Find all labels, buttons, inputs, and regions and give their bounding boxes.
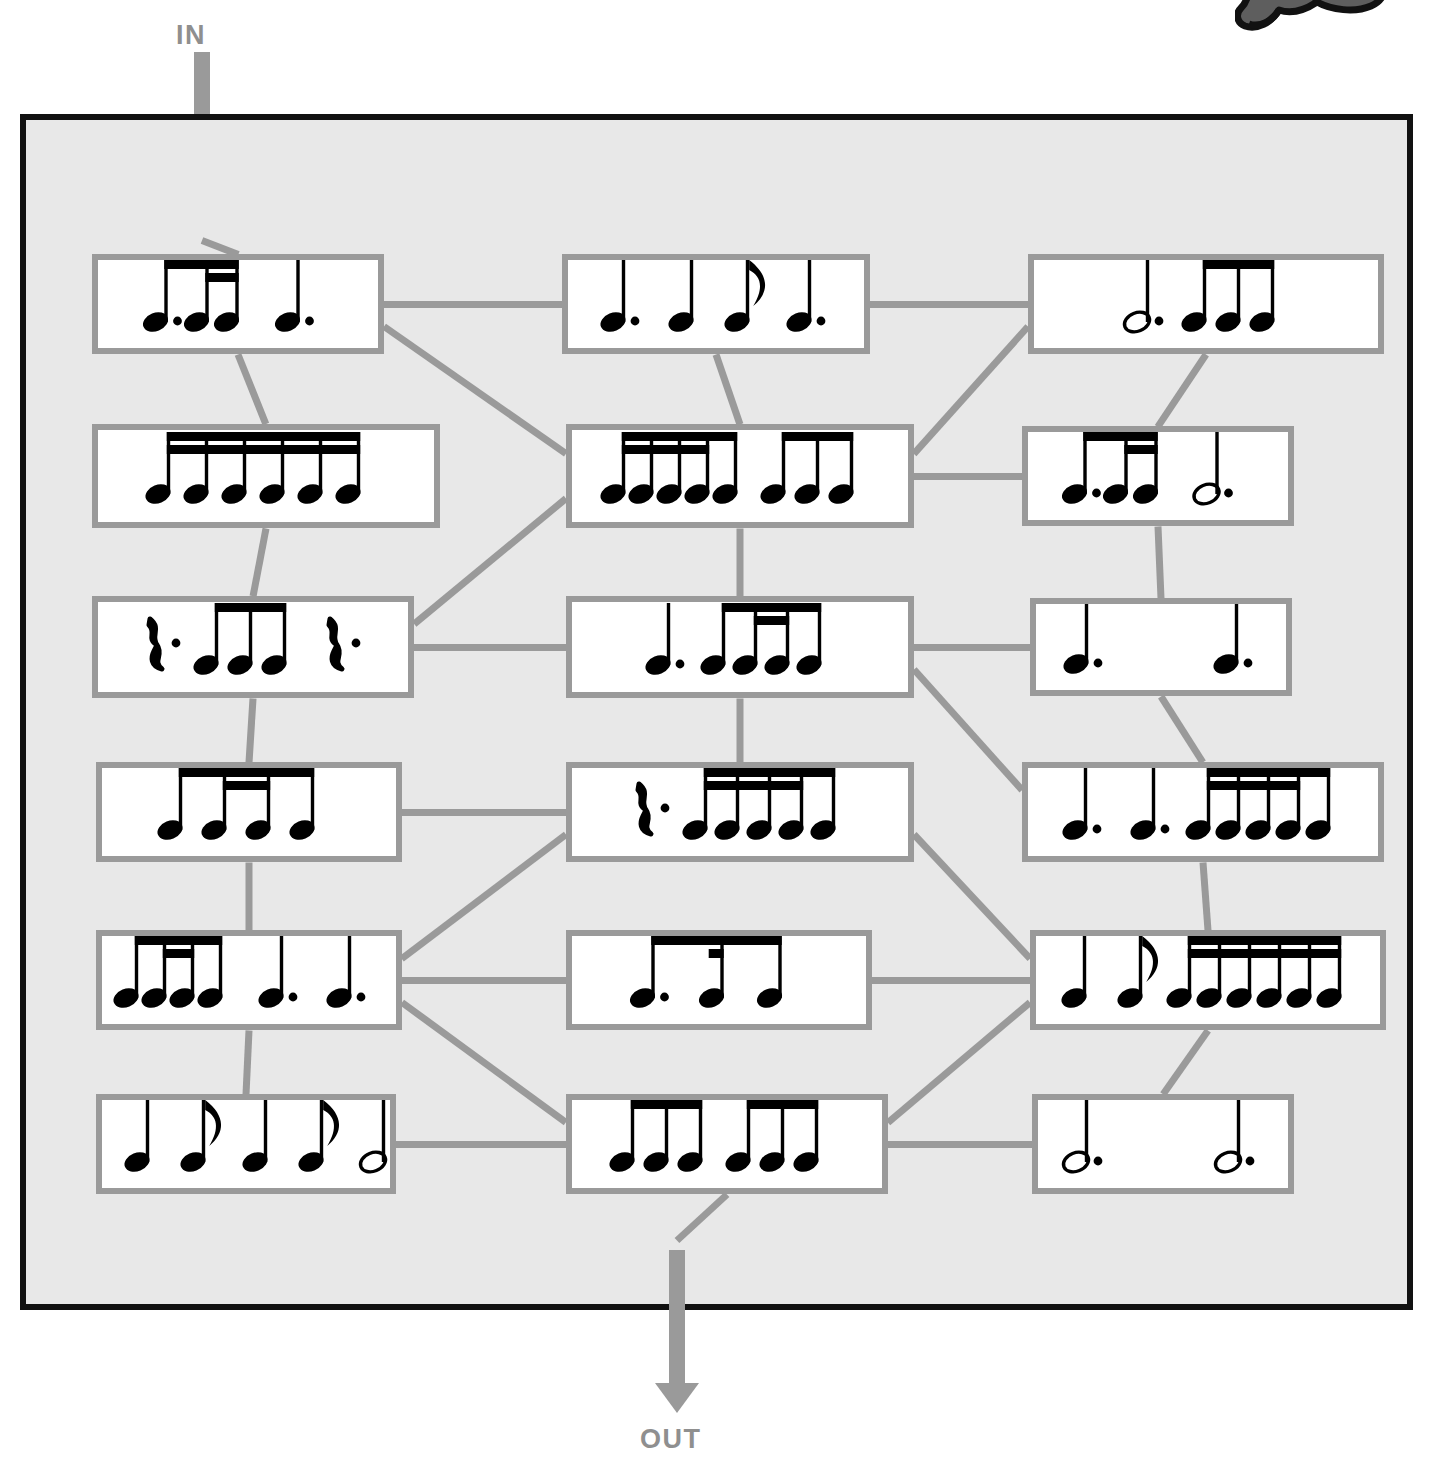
connector-r3c1-to-r3c2 xyxy=(414,644,566,651)
out-arrow xyxy=(655,1250,699,1415)
rhythm-box-r1c1[interactable] xyxy=(92,254,384,354)
rhythm-box-r3c1[interactable] xyxy=(92,596,414,698)
rhythm-box-r1c3[interactable] xyxy=(1028,254,1384,354)
arrow-head xyxy=(655,1383,699,1413)
connector-r6c2-to-r6c3 xyxy=(888,1141,1032,1148)
rhythm-box-r2c3[interactable] xyxy=(1022,426,1294,526)
in-label: IN xyxy=(176,20,206,51)
arrow-shaft xyxy=(669,1250,685,1385)
connector-r2c2-to-r2c3 xyxy=(914,473,1022,480)
rhythm-box-r4c1[interactable] xyxy=(96,762,402,862)
rhythm-box-r4c3[interactable] xyxy=(1022,762,1384,862)
connector-r1c2-to-r1c3 xyxy=(870,301,1028,308)
connector-r6c1-to-r6c2 xyxy=(396,1141,566,1148)
rhythm-box-r6c1[interactable] xyxy=(96,1094,396,1194)
rhythm-box-r2c1[interactable] xyxy=(92,424,440,528)
rhythm-box-r4c2[interactable] xyxy=(566,762,914,862)
connector-r5c2-to-r5c3 xyxy=(872,977,1030,984)
connector-r4c1-to-r5c1 xyxy=(246,862,253,930)
panther-mascot-logo xyxy=(1235,0,1405,58)
rhythm-box-r5c2[interactable] xyxy=(566,930,872,1030)
rhythm-box-r6c3[interactable] xyxy=(1032,1094,1294,1194)
connector-r2c2-to-r3c2 xyxy=(737,528,744,596)
rhythm-box-r1c2[interactable] xyxy=(562,254,870,354)
rhythm-box-r2c2[interactable] xyxy=(566,424,914,528)
rhythm-box-r5c1[interactable] xyxy=(96,930,402,1030)
connector-r1c1-to-r1c2 xyxy=(384,301,562,308)
connector-r3c2-to-r3c3 xyxy=(914,644,1030,651)
rhythm-box-r6c2[interactable] xyxy=(566,1094,888,1194)
rhythm-box-r3c2[interactable] xyxy=(566,596,914,698)
connector-r5c1-to-r5c2 xyxy=(402,977,566,984)
connector-r3c2-to-r4c2 xyxy=(737,698,744,762)
rhythm-box-r3c3[interactable] xyxy=(1030,598,1292,696)
worksheet-page: IN OUT xyxy=(0,0,1433,1461)
connector-r4c1-to-r4c2 xyxy=(402,809,566,816)
out-label: OUT xyxy=(640,1424,702,1455)
rhythm-box-r5c3[interactable] xyxy=(1030,930,1386,1030)
